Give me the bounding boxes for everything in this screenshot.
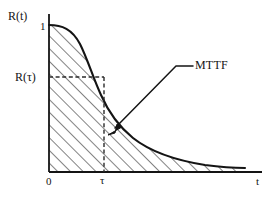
mttf-leader-line: [115, 66, 193, 128]
x-axis-label: t: [256, 176, 259, 187]
reliability-figure: R(t) 1 R(τ) 0 τ t MTTF: [0, 0, 274, 199]
x-tick-label-tau: τ: [100, 175, 104, 186]
y-tick-label-one: 1: [40, 21, 46, 32]
shaded-area-under-curve: [45, 20, 255, 178]
y-axis-label: R(t): [8, 10, 27, 22]
x-tick-label-origin: 0: [46, 176, 52, 187]
mttf-annotation-label: MTTF: [195, 59, 228, 71]
y-tick-label-r-tau: R(τ): [15, 71, 36, 83]
